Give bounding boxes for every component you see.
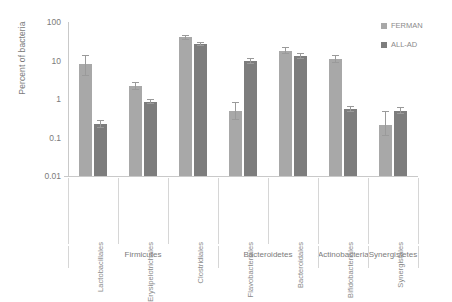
y-tick-label: 1: [56, 94, 61, 104]
bar-all-ad-clostridiales: [194, 44, 207, 176]
error-cap-top: [297, 53, 304, 54]
error-bar: [150, 99, 151, 104]
error-cap-bottom: [332, 62, 339, 63]
bar-all-ad-erysipelotrichales: [144, 102, 157, 176]
error-bar: [85, 55, 86, 76]
category-separator: [318, 178, 319, 244]
legend-label: FERMAN: [391, 21, 423, 30]
error-bar: [350, 106, 351, 112]
category-separator: [168, 178, 169, 244]
error-cap-bottom: [97, 127, 104, 128]
y-axis-line: [68, 22, 69, 176]
error-bar: [300, 53, 301, 59]
bar-ferman-erysipelotrichales: [129, 86, 142, 176]
error-cap-bottom: [347, 111, 354, 112]
error-bar: [185, 35, 186, 40]
error-cap-bottom: [232, 119, 239, 120]
error-cap-top: [347, 106, 354, 107]
error-cap-bottom: [382, 135, 389, 136]
error-bar: [285, 47, 286, 54]
error-cap-top: [382, 111, 389, 112]
error-bar: [235, 102, 236, 121]
error-cap-bottom: [282, 53, 289, 54]
error-bar: [335, 55, 336, 62]
bar-all-ad-flavobacteriales: [244, 61, 257, 176]
legend-item-all-ad[interactable]: ALL-AD: [381, 40, 451, 49]
error-bar: [200, 42, 201, 45]
y-axis-label: Percent of bacteria: [17, 0, 27, 118]
error-cap-top: [147, 99, 154, 100]
y-tick-mark: [64, 176, 69, 177]
bar-all-ad-synergistales: [394, 111, 407, 176]
error-bar: [400, 107, 401, 114]
group-label-actinobacteria: Actinobacteria: [318, 250, 368, 259]
legend-label: ALL-AD: [391, 40, 417, 49]
bar-ferman-bacteroidales: [279, 51, 292, 176]
legend-item-ferman[interactable]: FERMAN: [381, 21, 451, 30]
error-cap-top: [82, 55, 89, 56]
error-cap-bottom: [147, 103, 154, 104]
y-tick-label: 0.01: [44, 171, 61, 181]
chart-legend: FERMANALL-AD: [381, 21, 451, 59]
bar-ferman-bifidobacteriales: [329, 59, 342, 176]
error-cap-bottom: [132, 89, 139, 90]
group-label-firmicutes: Firmicutes: [68, 250, 218, 259]
group-label-bacteroidetes: Bacteroidetes: [218, 250, 318, 259]
bar-ferman-synergistales: [379, 125, 392, 176]
category-separator: [218, 178, 219, 244]
error-cap-bottom: [197, 45, 204, 46]
error-bar: [250, 58, 251, 64]
plot-area: 1001010.10.01: [68, 22, 418, 176]
category-separator: [118, 178, 119, 244]
error-cap-top: [182, 35, 189, 36]
error-cap-top: [132, 82, 139, 83]
group-separator: [218, 246, 219, 268]
error-bar: [385, 111, 386, 136]
error-cap-top: [247, 58, 254, 59]
error-cap-bottom: [397, 113, 404, 114]
category-separator: [368, 178, 369, 244]
category-separator: [68, 178, 69, 244]
group-separator: [68, 246, 69, 268]
error-cap-bottom: [82, 75, 89, 76]
bar-all-ad-bacteroidales: [294, 56, 307, 176]
y-tick-label: 0.1: [49, 133, 61, 143]
group-separator: [418, 246, 419, 268]
bar-ferman-clostridiales: [179, 37, 192, 176]
category-tick-labels: LactobacillalesErysipelotrichalesClostri…: [68, 178, 418, 246]
legend-swatch-icon: [381, 42, 387, 48]
legend-swatch-icon: [381, 23, 387, 29]
category-separator: [418, 178, 419, 244]
x-axis-line: [68, 176, 418, 177]
error-cap-top: [197, 42, 204, 43]
error-cap-bottom: [247, 63, 254, 64]
bar-ferman-lactobacillales: [79, 64, 92, 176]
bar-all-ad-bifidobacteriales: [344, 109, 357, 176]
y-tick-label: 100: [47, 17, 61, 27]
group-separator: [318, 246, 319, 268]
group-label-synergistetes: Synergistetes: [368, 250, 418, 259]
error-cap-top: [397, 107, 404, 108]
error-bar: [135, 82, 136, 90]
error-cap-top: [332, 55, 339, 56]
error-cap-bottom: [297, 58, 304, 59]
bar-all-ad-lactobacillales: [94, 124, 107, 176]
category-separator: [268, 178, 269, 244]
error-cap-top: [282, 47, 289, 48]
y-tick-label: 10: [52, 56, 61, 66]
phylum-group-band: FirmicutesBacteroidetesActinobacteriaSyn…: [68, 246, 418, 270]
error-cap-top: [232, 102, 239, 103]
error-bar: [100, 120, 101, 128]
bar-ferman-flavobacteriales: [229, 111, 242, 176]
error-cap-bottom: [182, 39, 189, 40]
error-cap-top: [97, 120, 104, 121]
group-separator: [368, 246, 369, 268]
